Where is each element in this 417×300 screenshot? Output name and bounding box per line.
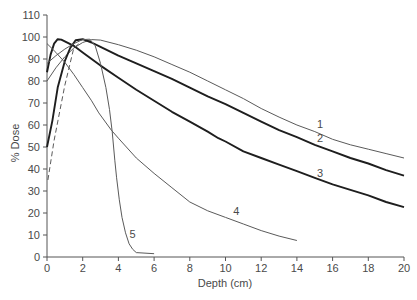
y-tick-label: 30 (28, 185, 40, 197)
x-tick-label: 18 (362, 262, 374, 274)
curve-2 (47, 39, 404, 175)
y-tick-label: 10 (28, 229, 40, 241)
y-tick-label: 20 (28, 207, 40, 219)
y-tick-label: 90 (28, 53, 40, 65)
x-tick-label: 6 (151, 262, 157, 274)
y-tick-label: 50 (28, 141, 40, 153)
x-tick-label: 20 (398, 262, 410, 274)
x-tick-label: 8 (187, 262, 193, 274)
x-axis-title: Depth (cm) (198, 277, 252, 289)
x-tick-label: 2 (80, 262, 86, 274)
y-tick-label: 110 (22, 9, 40, 21)
x-tick-label: 4 (115, 262, 121, 274)
curve-4 (47, 44, 297, 241)
curve-5 (47, 39, 154, 254)
curve-label-2: 2 (317, 132, 323, 144)
curve-1 (47, 40, 404, 158)
y-tick-label: 60 (28, 119, 40, 131)
depth-dose-chart: 0102030405060708090100110024681012141618… (0, 0, 417, 300)
y-tick-label: 40 (28, 163, 40, 175)
curve-label-3: 3 (317, 167, 323, 179)
x-tick-label: 14 (291, 262, 303, 274)
y-axis-title: % Dose (9, 124, 21, 163)
y-tick-label: 70 (28, 97, 40, 109)
curve-label-1: 1 (317, 118, 323, 130)
series-group (47, 39, 404, 254)
x-tick-label: 0 (44, 262, 50, 274)
curve-label-4: 4 (233, 205, 239, 217)
x-tick-label: 12 (255, 262, 267, 274)
x-tick-label: 10 (219, 262, 231, 274)
y-tick-label: 100 (22, 31, 40, 43)
y-tick-label: 0 (34, 251, 40, 263)
axes: 0102030405060708090100110024681012141618… (22, 9, 410, 274)
x-tick-label: 16 (326, 262, 338, 274)
y-tick-label: 80 (28, 75, 40, 87)
curve-label-5: 5 (130, 228, 136, 240)
